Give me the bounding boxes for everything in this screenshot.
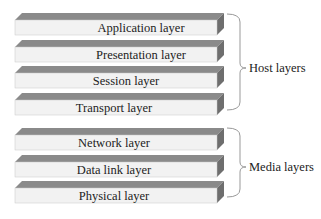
block-top-face	[15, 181, 224, 188]
host-layers-label: Host layers	[249, 61, 306, 75]
media-layers-label: Media layers	[249, 160, 314, 174]
block-top-face	[15, 40, 224, 47]
layer-block-network: Network layer	[15, 128, 224, 150]
block-top-face	[15, 13, 224, 20]
layer-label: Data link layer	[77, 163, 152, 177]
layer-block-transport: Transport layer	[15, 93, 224, 115]
layer-label: Presentation layer	[96, 48, 187, 62]
layer-block-physical: Physical layer	[15, 181, 224, 203]
media-layers-bracket	[227, 128, 246, 197]
layer-block-presentation: Presentation layer	[15, 40, 224, 62]
block-top-face	[15, 93, 224, 100]
layer-block-application: Application layer	[15, 13, 224, 35]
layer-label: Physical layer	[79, 189, 150, 203]
layer-label: Transport layer	[76, 101, 153, 115]
block-top-face	[15, 128, 224, 135]
layer-block-data-link: Data link layer	[15, 155, 224, 177]
layer-label: Session layer	[93, 74, 160, 88]
osi-layer-diagram: Application layer Presentation layer Ses…	[0, 0, 321, 219]
block-top-face	[15, 66, 224, 73]
layer-block-session: Session layer	[15, 66, 224, 88]
layer-label: Network layer	[78, 136, 151, 150]
host-layers-bracket	[227, 14, 246, 110]
layer-label: Application layer	[97, 21, 185, 35]
block-top-face	[15, 155, 224, 162]
